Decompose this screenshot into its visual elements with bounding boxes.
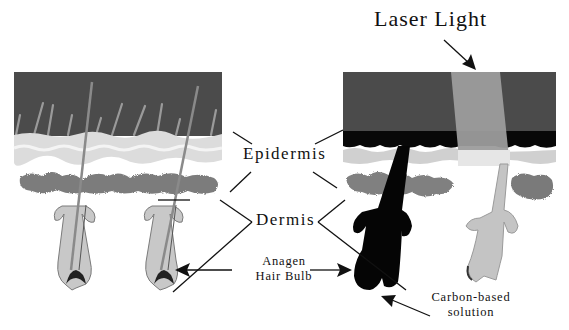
right-dermis-layer-2 xyxy=(511,173,553,199)
anagen-hair-bulb-label: Anagen Hair Bulb xyxy=(244,254,324,284)
carbon-label-line1: Carbon-based xyxy=(418,290,524,305)
carbon-filled-follicle xyxy=(353,146,412,290)
dermis-leader-left-b xyxy=(173,222,252,292)
anagen-label-line2: Hair Bulb xyxy=(244,269,324,284)
dermis-leader-right-up xyxy=(313,172,337,188)
right-carbon-band xyxy=(343,131,556,148)
dermis-leader-left-a xyxy=(220,200,252,222)
laser-arrow-shaft xyxy=(444,40,470,64)
epidermis-leader-left xyxy=(233,132,252,144)
right-surface-layer xyxy=(343,72,556,132)
carbon-label-line2: solution xyxy=(418,305,524,320)
laser-arrowhead xyxy=(462,54,476,70)
dermis-label: Dermis xyxy=(256,210,315,230)
laser-light-label: Laser Light xyxy=(374,6,487,32)
epidermis-label: Epidermis xyxy=(243,144,326,164)
left-skin-panel xyxy=(14,72,222,290)
left-dermis-layer xyxy=(20,172,218,194)
bleached-follicle xyxy=(466,164,518,282)
dermis-leader-left-up xyxy=(230,172,251,192)
right-skin-panel xyxy=(343,72,556,290)
right-epidermis-layer xyxy=(343,148,556,164)
dermis-leader-right-a xyxy=(318,200,345,222)
epidermis-leader-right xyxy=(315,130,343,144)
anagen-label-line1: Anagen xyxy=(244,254,324,269)
carbon-solution-label: Carbon-based solution xyxy=(418,290,524,320)
